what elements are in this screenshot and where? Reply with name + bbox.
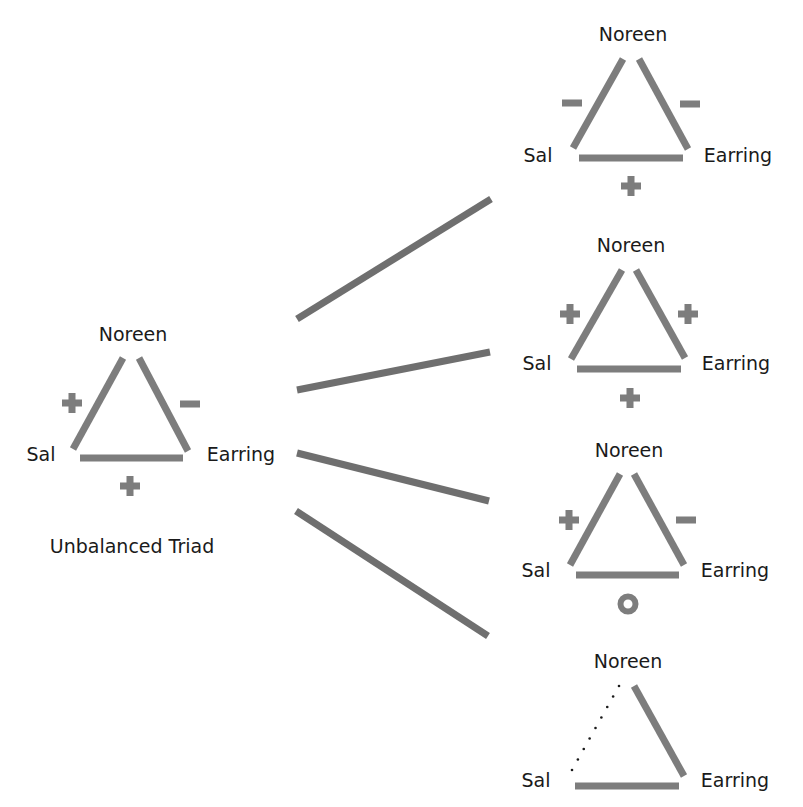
node-label-right: Earring	[701, 559, 769, 581]
triad-resolution-4: NoreenSalEarring	[522, 650, 770, 791]
plus-icon	[621, 176, 641, 196]
plus-icon	[120, 476, 140, 496]
connector-to-resolution-3	[297, 453, 489, 501]
edge-noreen-earring	[634, 686, 684, 776]
node-label-left: Sal	[524, 144, 553, 166]
node-label-left: Sal	[27, 443, 56, 465]
node-label-right: Earring	[207, 443, 275, 465]
node-label-left: Sal	[522, 559, 551, 581]
edge-sal-noreen-absent	[571, 685, 621, 772]
node-label-left: Sal	[523, 352, 552, 374]
triad-resolution-2: NoreenSalEarring	[523, 234, 771, 408]
plus-icon	[560, 304, 580, 324]
plus-icon	[559, 510, 579, 530]
edge-noreen-earring	[636, 270, 685, 358]
resolution-connectors	[296, 199, 491, 636]
triad-diagram: NoreenSalEarringUnbalanced Triad NoreenS…	[0, 0, 803, 807]
node-label-top: Noreen	[597, 234, 666, 256]
minus-icon	[180, 401, 200, 408]
minus-icon	[676, 517, 696, 524]
triad-resolution-1: NoreenSalEarring	[524, 23, 773, 196]
plus-icon	[678, 304, 698, 324]
zero-ring-icon	[621, 597, 636, 612]
connector-to-resolution-4	[296, 511, 488, 636]
node-label-top: Noreen	[599, 23, 668, 45]
minus-icon	[562, 100, 582, 107]
plus-icon	[62, 393, 82, 413]
connector-to-resolution-1	[297, 199, 491, 319]
node-label-right: Earring	[704, 144, 772, 166]
triad-unbalanced: NoreenSalEarringUnbalanced Triad	[27, 323, 276, 557]
triad-resolution-3: NoreenSalEarring	[522, 439, 770, 612]
node-label-right: Earring	[701, 769, 769, 791]
node-label-right: Earring	[702, 352, 770, 374]
node-label-top: Noreen	[99, 323, 168, 345]
resolution-triads: NoreenSalEarringNoreenSalEarringNoreenSa…	[522, 23, 773, 791]
triad-caption: Unbalanced Triad	[50, 535, 214, 557]
node-label-top: Noreen	[594, 650, 663, 672]
unbalanced-triad: NoreenSalEarringUnbalanced Triad	[27, 323, 276, 557]
node-label-top: Noreen	[595, 439, 664, 461]
plus-icon	[620, 388, 640, 408]
connector-to-resolution-2	[297, 352, 490, 390]
minus-icon	[680, 101, 700, 108]
node-label-left: Sal	[522, 769, 551, 791]
